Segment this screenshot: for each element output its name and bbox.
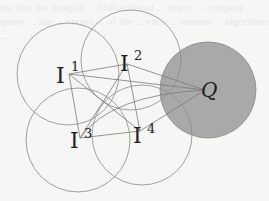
svg-text:I: I bbox=[133, 123, 142, 148]
label-i2: I 2 bbox=[120, 48, 142, 76]
svg-text:3: 3 bbox=[84, 126, 92, 141]
label-i3: I 3 bbox=[70, 126, 92, 153]
svg-text:I: I bbox=[56, 63, 65, 88]
svg-text:I: I bbox=[120, 51, 129, 76]
circle-i1 bbox=[17, 23, 119, 125]
svg-text:4: 4 bbox=[147, 121, 155, 136]
edge-i2-i4 bbox=[127, 64, 140, 131]
label-q: Q bbox=[201, 78, 217, 102]
diagram-canvas: ms that the integral ... bidirectional .… bbox=[0, 0, 269, 201]
svg-text:I: I bbox=[70, 128, 79, 153]
label-i1: I 1 bbox=[56, 59, 79, 88]
svg-text:1: 1 bbox=[71, 59, 79, 74]
edge-i1-i4 bbox=[69, 74, 140, 131]
svg-text:2: 2 bbox=[134, 48, 142, 63]
diagram-svg: I 1 I 2 I 3 I 4 Q bbox=[0, 0, 269, 201]
label-i4: I 4 bbox=[133, 121, 155, 148]
